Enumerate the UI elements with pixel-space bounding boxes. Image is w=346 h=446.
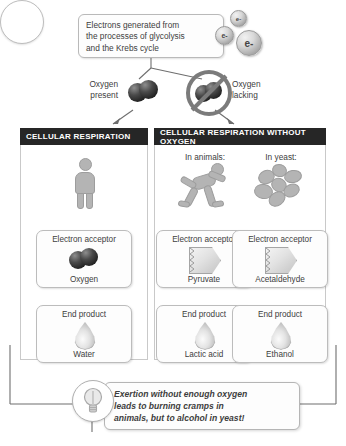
oxygen-present-label: Oxygen present [62, 79, 118, 100]
acceptor-caption: Electron acceptor [233, 235, 327, 244]
product-box-ethanol: End product Ethanol [232, 305, 328, 363]
product-art [37, 321, 131, 349]
product-name: Ethanol [233, 350, 327, 359]
droplet-icon [194, 322, 216, 350]
acceptor-art [37, 246, 131, 274]
product-caption: End product [37, 310, 131, 319]
droplet-icon [74, 322, 96, 350]
product-caption: End product [233, 310, 327, 319]
panel-right-header: CELLULAR RESPIRATION WITHOUT OXYGEN [154, 128, 326, 145]
caption-text: Exertion without enough oxygen leads to … [114, 388, 294, 425]
acceptor-box-acetaldehyde: Electron acceptor Acetaldehyde [232, 230, 328, 288]
product-art [233, 321, 327, 349]
yeast-cells-icon [254, 164, 306, 210]
subhead-in-yeast: In yeast: [244, 152, 318, 162]
pentagon-teeth [265, 247, 272, 272]
oxygen-molecule-icon [69, 248, 99, 272]
lightbulb-icon [73, 381, 113, 421]
acceptor-art [233, 246, 327, 274]
standing-person-icon [72, 158, 98, 208]
droplet-icon [270, 322, 292, 350]
subhead-in-animals: In animals: [168, 152, 242, 162]
caption-box: Exertion without enough oxygen leads to … [104, 382, 300, 430]
oxygen-lacking-icon [186, 70, 232, 116]
running-person-icon [178, 163, 230, 209]
oxygen-molecule-icon [128, 80, 158, 106]
panel-left-header: CELLULAR RESPIRATION [20, 128, 148, 145]
diagram-canvas: Electrons generated from the processes o… [0, 0, 346, 446]
acceptor-name: Oxygen [37, 275, 131, 284]
lightbulb-badge [72, 380, 114, 422]
product-name: Water [37, 350, 131, 359]
oxygen-lacking-label: Oxygen lacking [232, 79, 288, 100]
pentagon-teeth [189, 247, 196, 272]
acceptor-box-oxygen: Electron acceptor Oxygen [36, 230, 132, 288]
acceptor-caption: Electron acceptor [37, 235, 131, 244]
acceptor-name: Acetaldehyde [233, 275, 327, 284]
product-box-water: End product Water [36, 305, 132, 363]
